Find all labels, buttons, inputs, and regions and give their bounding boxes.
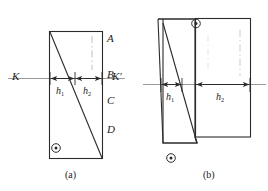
edge-label-b: B (107, 69, 114, 80)
circle-dot-icon-a (52, 144, 61, 153)
circle-dot-icon-b-bottom (167, 154, 176, 163)
dimension-label-h1-b-sub: 1 (171, 96, 174, 103)
diagram-canvas: K K' A B C D h1 h2 (a) h1 h2 (b) (0, 0, 268, 191)
edge-label-d: D (107, 124, 115, 135)
dimension-label-h2-b-sub: 2 (221, 96, 224, 103)
dimension-label-h2-a-sub: 2 (88, 90, 91, 97)
edge-label-a: A (107, 33, 114, 44)
edge-label-c: C (107, 95, 114, 106)
caption-panel-a: (a) (65, 170, 76, 180)
diagonal-line-b (163, 23, 197, 143)
axis-label-k-left: K (12, 71, 19, 82)
left-slanted-shape-b (158, 19, 197, 143)
dimension-label-h1-a-sub: 1 (61, 90, 64, 97)
diagram-vector-layer (0, 0, 268, 191)
dimension-label-h1-b: h1 (166, 92, 174, 102)
dimension-label-h2-a: h2 (83, 86, 91, 96)
caption-panel-b: (b) (203, 170, 215, 180)
dimension-label-h2-b: h2 (216, 92, 224, 102)
left-shape-outline-b (158, 19, 197, 143)
panel-b-graphics (143, 19, 266, 163)
dimension-label-h1-a: h1 (56, 86, 64, 96)
right-rectangle-b (196, 19, 251, 138)
